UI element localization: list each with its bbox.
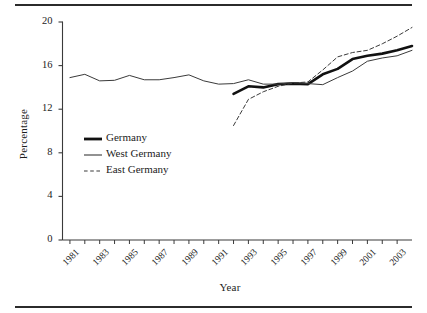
data-series-group xyxy=(70,27,412,125)
legend-label-germany: Germany xyxy=(106,131,147,143)
figure-container: Percentage Year 048121620 19811983198519… xyxy=(0,0,427,313)
y-tick-label: 4 xyxy=(31,189,53,200)
y-tick-label: 8 xyxy=(31,146,53,157)
y-tick-label: 20 xyxy=(31,15,53,26)
y-tick-label: 12 xyxy=(31,102,53,113)
legend-swatch-group xyxy=(84,139,102,171)
y-tick-label: 16 xyxy=(31,59,53,70)
legend-label-east-germany: East Germany xyxy=(106,163,169,175)
series-line-west-germany xyxy=(70,50,412,84)
series-line-east-germany xyxy=(234,27,412,125)
y-tick-label: 0 xyxy=(31,233,53,244)
legend-label-west-germany: West Germany xyxy=(106,147,171,159)
